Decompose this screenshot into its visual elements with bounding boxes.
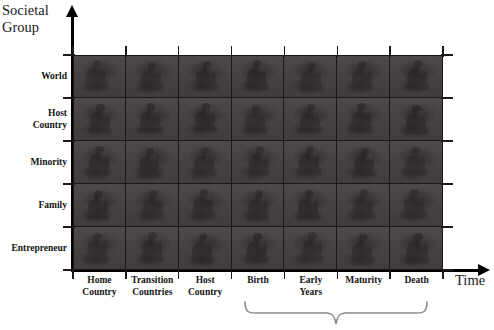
matrix-cell	[284, 184, 337, 227]
y-axis-tick	[441, 183, 453, 185]
person-silhouette-icon	[245, 233, 270, 264]
x-axis-tick	[284, 46, 286, 57]
matrix-cell	[232, 184, 285, 227]
person-silhouette-icon	[247, 146, 272, 176]
matrix-cell	[284, 55, 337, 98]
person-silhouette-icon	[141, 190, 166, 220]
matrix-cell	[73, 141, 126, 184]
person-silhouette-icon	[297, 146, 322, 176]
matrix-cell	[73, 98, 126, 141]
person-silhouette-icon	[192, 147, 217, 177]
y-axis-tick	[441, 140, 453, 142]
matrix-cell	[126, 98, 179, 141]
matrix-cell	[337, 141, 390, 184]
matrix-cell	[337, 55, 390, 98]
x-axis-tick	[442, 46, 444, 57]
y-axis-arrow-icon	[66, 5, 78, 17]
person-silhouette-icon	[402, 189, 427, 219]
x-axis-label-early-years: Early Years	[284, 275, 337, 298]
figure-canvas: Societal Group WorldHost CountryMinority…	[0, 0, 494, 330]
y-axis-tick	[63, 226, 75, 228]
matrix-cell	[179, 184, 232, 227]
x-axis-tick	[389, 46, 391, 57]
person-silhouette-icon	[138, 103, 163, 133]
matrix-cell	[390, 184, 443, 227]
matrix-cell	[73, 227, 126, 270]
person-silhouette-icon	[299, 62, 324, 92]
person-silhouette-icon	[351, 189, 376, 219]
x-axis-label-transition-countries: Transition Countries	[126, 275, 179, 298]
person-silhouette-icon	[405, 60, 430, 90]
person-silhouette-icon	[243, 105, 268, 135]
matrix-grid	[73, 55, 443, 270]
person-silhouette-icon	[300, 232, 325, 263]
matrix-cell	[337, 227, 390, 270]
matrix-cell	[179, 227, 232, 270]
person-silhouette-icon	[245, 60, 270, 90]
matrix-cell	[284, 141, 337, 184]
x-axis-label-maturity: Maturity	[337, 275, 390, 287]
y-axis-tick	[63, 183, 75, 185]
person-silhouette-icon	[350, 61, 375, 91]
person-silhouette-icon	[246, 191, 271, 221]
x-axis-label-home-country: Home Country	[73, 275, 126, 298]
person-silhouette-icon	[352, 148, 377, 178]
matrix-cell	[179, 98, 232, 141]
person-silhouette-icon	[84, 60, 109, 90]
y-axis-tick	[441, 97, 453, 99]
matrix-cell	[126, 227, 179, 270]
person-silhouette-icon	[85, 233, 110, 264]
x-axis-label-host-country: Host Country	[179, 275, 232, 298]
matrix-cell	[232, 141, 285, 184]
person-silhouette-icon	[193, 103, 218, 133]
matrix-cell	[390, 227, 443, 270]
person-silhouette-icon	[194, 61, 219, 91]
matrix-cell	[284, 227, 337, 270]
matrix-cell	[126, 141, 179, 184]
x-axis-tick	[72, 46, 74, 57]
person-silhouette-icon	[140, 232, 165, 263]
person-silhouette-icon	[139, 62, 164, 92]
matrix-cell	[337, 98, 390, 141]
x-axis-tick	[125, 46, 127, 57]
person-silhouette-icon	[350, 234, 375, 265]
matrix-cell	[126, 55, 179, 98]
y-axis-label-world: World	[0, 71, 67, 83]
x-axis-tick	[337, 46, 339, 57]
y-axis-title: Societal Group	[2, 2, 66, 36]
x-axis-title: Time	[455, 272, 485, 288]
person-silhouette-icon	[298, 104, 323, 134]
matrix-cell	[284, 98, 337, 141]
person-silhouette-icon	[190, 234, 215, 265]
y-axis-tick	[441, 226, 453, 228]
matrix-cell	[390, 98, 443, 141]
person-silhouette-icon	[296, 190, 321, 220]
grouping-brace	[243, 300, 429, 330]
matrix-cell	[232, 98, 285, 141]
x-axis-label-death: Death	[390, 275, 443, 287]
person-silhouette-icon	[191, 189, 216, 219]
y-axis-label-minority: Minority	[0, 157, 67, 169]
person-silhouette-icon	[405, 233, 430, 264]
y-axis-tick	[63, 140, 75, 142]
matrix-cell	[390, 55, 443, 98]
y-axis-label-entrepreneur: Entrepreneur	[0, 243, 67, 255]
person-silhouette-icon	[349, 103, 374, 133]
x-axis-tick	[178, 46, 180, 57]
y-axis-tick	[63, 97, 75, 99]
person-silhouette-icon	[137, 148, 162, 178]
matrix-cell	[390, 141, 443, 184]
matrix-cell	[73, 55, 126, 98]
matrix-cell	[73, 184, 126, 227]
x-axis-tick	[231, 46, 233, 57]
matrix-cell	[179, 141, 232, 184]
person-silhouette-icon	[88, 104, 113, 134]
matrix-cell	[232, 55, 285, 98]
matrix-cell	[337, 184, 390, 227]
person-silhouette-icon	[87, 146, 112, 176]
x-axis-label-birth: Birth	[232, 275, 285, 287]
y-axis-label-family: Family	[0, 200, 67, 212]
y-axis-label-host-country: Host Country	[0, 108, 67, 131]
matrix-cell	[232, 227, 285, 270]
matrix-cell	[179, 55, 232, 98]
